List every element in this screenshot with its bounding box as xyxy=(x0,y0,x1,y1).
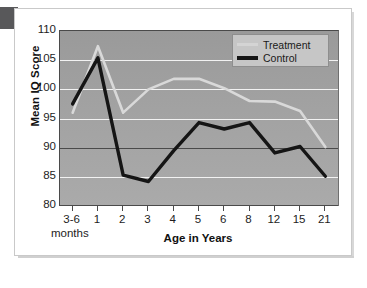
x-tick-label-6: 6 xyxy=(220,213,226,225)
y-axis-line xyxy=(59,30,60,206)
x-axis-title: Age in Years xyxy=(59,232,337,244)
y-axis-title: Mean IQ Score xyxy=(29,26,41,146)
chart-legend: Treatment Control xyxy=(232,34,329,67)
x-tick-8 xyxy=(249,206,250,211)
legend-swatch-control xyxy=(237,56,258,60)
legend-swatch-treatment xyxy=(237,43,258,46)
x-tick-21 xyxy=(324,206,325,211)
legend-item-treatment: Treatment xyxy=(237,38,324,51)
x-tick-label-3: 3 xyxy=(144,213,150,225)
y-tick-label-85: 85 xyxy=(16,170,56,181)
x-tick-label-3-6: 3-6 xyxy=(63,213,80,225)
x-tick-3 xyxy=(147,206,148,211)
x-tick-label-1: 1 xyxy=(94,213,100,225)
x-tick-1 xyxy=(97,206,98,211)
x-tick-6 xyxy=(223,206,224,211)
x-tick-5 xyxy=(198,206,199,211)
x-tick-3-6 xyxy=(72,206,73,211)
line-chart: 80859095100105110 Mean IQ Score 3-612345… xyxy=(14,8,352,256)
y-tick-label-80: 80 xyxy=(16,199,56,210)
x-tick-label-4: 4 xyxy=(170,213,176,225)
legend-label-control: Control xyxy=(263,52,297,64)
legend-item-control: Control xyxy=(237,51,324,64)
x-tick-4 xyxy=(173,206,174,211)
x-tick-label-2: 2 xyxy=(119,213,125,225)
page-frame-shadow-right xyxy=(352,12,354,258)
x-tick-label-12: 12 xyxy=(267,213,280,225)
x-tick-12 xyxy=(274,206,275,211)
x-tick-15 xyxy=(299,206,300,211)
x-tick-label-21: 21 xyxy=(318,213,331,225)
page-frame-shadow-bottom xyxy=(18,256,354,258)
legend-label-treatment: Treatment xyxy=(263,39,310,51)
x-tick-label-15: 15 xyxy=(293,213,306,225)
x-tick-2 xyxy=(122,206,123,211)
x-tick-label-5: 5 xyxy=(195,213,201,225)
x-tick-label-8: 8 xyxy=(245,213,251,225)
